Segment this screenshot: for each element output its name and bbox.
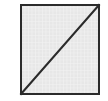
square-with-diagonal-graphic bbox=[0, 0, 108, 101]
figure-canvas: Square with diagonal A square outlined w… bbox=[0, 0, 108, 101]
